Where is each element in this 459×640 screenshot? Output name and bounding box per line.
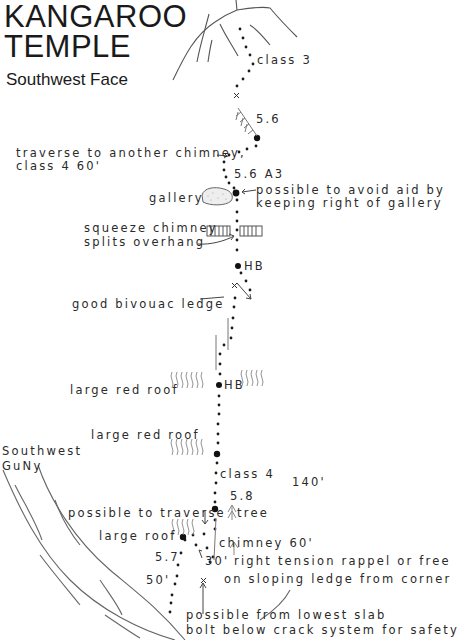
label-rappel-line2: on sloping ledge from corner	[224, 573, 452, 586]
label-lowest-slab-line2: bolt below crack system for safety	[186, 624, 459, 637]
label-hb-upper: HB	[244, 260, 265, 273]
label-gallery: gallery	[149, 192, 204, 205]
label-hb-lower: HB	[224, 379, 245, 392]
label-good-bivouac-ledge: good bivouac ledge	[72, 298, 225, 311]
summit-outline	[173, 0, 297, 80]
label-avoid-aid-line2: keeping right of gallery	[256, 197, 443, 210]
label-length-140: 140'	[292, 476, 326, 489]
label-large-roof: large roof	[99, 530, 176, 543]
label-splits-overhang: splits overhang	[84, 236, 205, 249]
label-grade-5-7: 5.7	[155, 551, 180, 564]
route-dots	[169, 28, 258, 614]
label-class-3: class 3	[257, 54, 312, 67]
label-tree: tree	[237, 507, 269, 520]
label-grade-5-8: 5.8	[230, 490, 255, 503]
label-possible-to-traverse: possible to traverse	[68, 507, 226, 520]
label-large-red-roof-2: large red roof	[91, 429, 200, 442]
label-southwest-gully-line1: Southwest	[2, 445, 82, 458]
label-southwest-gully-line2: GuNy	[2, 460, 42, 473]
label-rappel-line1: right tension rappel or free	[234, 555, 451, 568]
label-length-30: 30'	[205, 555, 229, 568]
label-squeeze-chimney: squeeze chimney	[84, 222, 218, 235]
label-class-4: class 4	[220, 468, 275, 481]
label-traverse-line2: class 4 60'	[16, 160, 101, 173]
label-grade-5-6-a3: 5.6 A3	[234, 168, 284, 181]
label-large-red-roof-1: large red roof	[70, 384, 179, 397]
gallery-shape	[202, 188, 232, 205]
label-length-50: 50'	[146, 574, 170, 587]
tree-glyph-upper	[236, 108, 257, 136]
label-chimney-60: chimney 60'	[219, 537, 314, 550]
label-grade-5-6-upper: 5.6	[256, 113, 281, 126]
label-lowest-slab-line1: possible from lowest slab	[186, 609, 387, 622]
